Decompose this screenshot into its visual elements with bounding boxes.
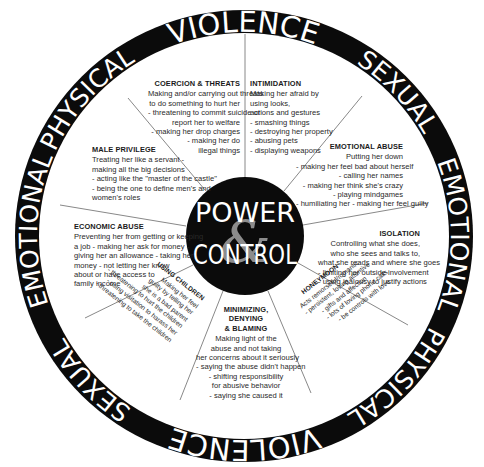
segment-line: money - not letting her know <box>74 261 184 270</box>
segment-title: ECONOMIC ABUSE <box>74 222 184 231</box>
segment-line: - making her think she's crazy <box>296 181 403 190</box>
segment-line: - threatening to commit suicide or <box>148 108 240 117</box>
segment-line: Treating her like a servant - <box>92 155 192 164</box>
segment-title: MALE PRIVILEGE <box>92 145 192 154</box>
segment-line: who she sees and talks to, <box>318 249 420 258</box>
segment-line: - shifting responsibility <box>196 372 296 381</box>
segment-title-line: & BLAMING <box>196 324 296 333</box>
segment-title-line: DENYING <box>196 314 296 323</box>
segment-line: - saying she caused it <box>196 391 296 400</box>
segment-title: COERCION & THREATS <box>148 79 240 88</box>
segment-line: - calling her names <box>296 171 403 180</box>
segment-line: Preventing her from getting or keeping <box>74 232 184 241</box>
segment-line: - being the one to define men's and <box>92 184 192 193</box>
segment-line: Making her afraid by <box>250 89 340 98</box>
segment-line: - smashing things <box>250 118 340 127</box>
segment-title-line: MINIMIZING, <box>196 305 296 314</box>
hub-control: CONTROL <box>193 239 297 270</box>
segment-line: Making light of the <box>196 334 296 343</box>
segment-minimizing-denying-blaming: MINIMIZING, DENYING & BLAMING Making lig… <box>196 305 296 400</box>
segment-line: - making her drop charges <box>148 127 240 136</box>
segment-line: Putting her down <box>296 152 403 161</box>
hub-power: POWER <box>195 197 295 228</box>
segment-line: giving her an allowance - taking her <box>74 251 184 260</box>
segment-line: report her to welfare <box>148 118 240 127</box>
segment-emotional-abuse: EMOTIONAL ABUSE Putting her down - makin… <box>296 142 403 209</box>
segment-economic-abuse: ECONOMIC ABUSE Preventing her from getti… <box>74 222 184 289</box>
segment-male-privilege: MALE PRIVILEGE Treating her like a serva… <box>92 145 192 202</box>
segment-line: - destroying her property <box>250 127 340 136</box>
segment-line: making all the big decisions <box>92 165 192 174</box>
segment-line: Making and/or carrying out threats <box>148 89 240 98</box>
segment-line: actions and gestures <box>250 108 340 117</box>
segment-line: family income <box>74 279 184 288</box>
segment-title: EMOTIONAL ABUSE <box>296 142 403 151</box>
segment-title: INTIMIDATION <box>250 79 340 88</box>
segment-line: - saying the abuse didn't happen <box>196 362 296 371</box>
segment-line: - acting like the "master of the castle" <box>92 174 192 183</box>
segment-line: Controlling what she does, <box>318 239 420 248</box>
segment-line: women's roles <box>92 193 192 202</box>
segment-title: ISOLATION <box>318 229 420 238</box>
segment-line: her concerns about it seriously <box>196 353 296 362</box>
segment-line: a job - making her ask for money - <box>74 242 184 251</box>
segment-line: for abusive behavior <box>196 381 296 390</box>
segment-coercion-threats: COERCION & THREATS Making and/or carryin… <box>148 79 240 155</box>
segment-line: to do something to hurt her <box>148 99 240 108</box>
segment-line: using looks, <box>250 99 340 108</box>
segment-line: - making her feel bad about herself <box>296 162 403 171</box>
segment-line: abuse and not taking <box>196 344 296 353</box>
segment-line: about or have access to <box>74 270 184 279</box>
segment-line: - playing mindgames <box>296 190 403 199</box>
segment-line: - humiliating her - making her feel guil… <box>296 199 403 208</box>
